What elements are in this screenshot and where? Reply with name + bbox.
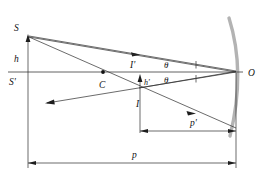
mirror-arc: [229, 18, 238, 136]
ray-source-through-center: [29, 37, 236, 128]
label-object-height-h: h: [14, 54, 19, 64]
label-theta-lower: θ: [164, 75, 169, 85]
label-center-C: C: [99, 80, 106, 90]
object-arrowhead-icon: [26, 34, 31, 42]
label-source-S: S: [14, 23, 19, 33]
diagram-canvas: S h S' C I' h' I θ θ O p' p: [0, 0, 269, 192]
label-object-distance-p: p: [131, 150, 137, 160]
label-image-above-axis-I-prime: I': [129, 60, 136, 70]
label-image-height-h-prime: h': [144, 78, 150, 87]
ray-arrowhead-icon-left: [45, 100, 55, 105]
image-arrowhead-icon: [138, 74, 143, 82]
label-vertex-O: O: [248, 68, 255, 78]
dim-p-left-arrow-icon: [28, 161, 36, 165]
label-image-distance-p-prime: p': [189, 118, 198, 128]
label-source-axis-S-prime: S': [9, 77, 17, 87]
dim-pprime-left-arrow-icon: [140, 129, 148, 133]
ray-vertex-to-image-upper: [139, 71, 236, 88]
label-theta-upper: θ: [164, 60, 169, 70]
optics-ray-diagram: S h S' C I' h' I θ θ O p' p: [0, 0, 269, 192]
label-image-I: I: [135, 99, 140, 109]
center-of-curvature-dot: [101, 70, 105, 74]
ray-arrowhead-icon-reflected-down: [187, 111, 197, 116]
dim-p-right-arrow-icon: [228, 161, 236, 165]
